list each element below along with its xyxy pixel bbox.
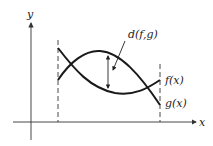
curve-g xyxy=(58,51,160,105)
curve-f xyxy=(58,48,160,94)
x-axis-label: x xyxy=(199,117,205,128)
distance-label: d(f,g) xyxy=(128,29,158,40)
distance-between-functions-diagram: y x d(f,g) f(x) g(x) xyxy=(0,0,213,146)
curve-g-label: g(x) xyxy=(165,98,187,109)
diagram-canvas xyxy=(0,0,213,146)
curve-f-label: f(x) xyxy=(165,75,184,86)
y-axis-label: y xyxy=(27,9,33,20)
